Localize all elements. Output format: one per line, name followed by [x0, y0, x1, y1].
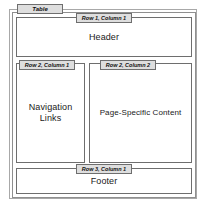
tag-row1-column1: Row 1, Column 1	[76, 13, 132, 23]
cell-navigation-label: Navigation Links	[29, 102, 73, 124]
cell-page-content: Page-Specific Content	[89, 63, 192, 163]
cell-header-label: Header	[89, 32, 119, 43]
tag-table: Table	[17, 4, 63, 14]
cell-footer-label: Footer	[91, 176, 118, 187]
cell-navigation: Navigation Links	[16, 63, 85, 163]
tag-row2-column2: Row 2, Column 2	[100, 60, 156, 70]
cell-header: Header	[16, 17, 192, 57]
cell-page-content-label: Page-Specific Content	[100, 108, 182, 118]
table-layout-diagram: Header Navigation Links Page-Specific Co…	[0, 0, 205, 210]
tag-row2-column1: Row 2, Column 1	[19, 60, 75, 70]
tag-row3-column1: Row 3, Column 1	[76, 164, 132, 174]
